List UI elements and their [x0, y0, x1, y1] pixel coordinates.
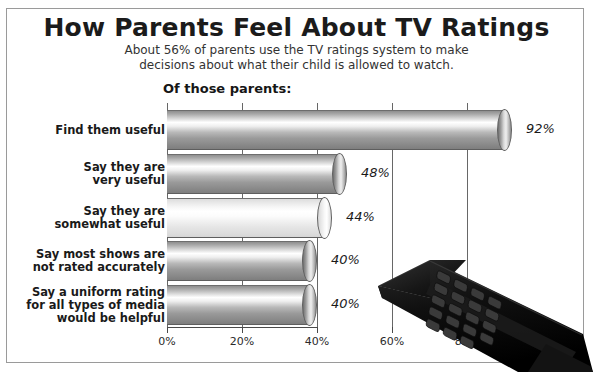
plot-area: 0%20%40%60%80%92%Find them useful48%Say …: [0, 0, 593, 372]
bar-body: [167, 241, 310, 281]
bar-value-label: 40%: [331, 296, 360, 311]
axis-tick-60: [392, 327, 393, 333]
axis-tick-label: 80%: [447, 335, 487, 348]
axis-tick-label: 40%: [297, 335, 337, 348]
category-label-line: would be helpful: [5, 312, 165, 325]
bar-value-label: 48%: [361, 165, 390, 180]
bar-2: [167, 154, 347, 194]
bar-value-label: 40%: [331, 252, 360, 267]
bar-body: [167, 285, 310, 325]
category-label-line: somewhat useful: [5, 218, 165, 231]
bar-end-cap: [332, 153, 347, 195]
category-label-5: Say a uniform ratingfor all types of med…: [5, 286, 165, 325]
bar-body: [167, 110, 505, 150]
category-label-4: Say most shows arenot rated accurately: [5, 248, 165, 274]
bar-1: [167, 110, 512, 150]
category-label-line: for all types of media: [5, 299, 165, 312]
bar-end-cap: [497, 109, 512, 151]
bar-value-label: 92%: [526, 121, 555, 136]
bar-value-label: 44%: [346, 209, 375, 224]
category-label-2: Say they arevery useful: [5, 161, 165, 187]
bar-5: [167, 285, 317, 325]
bar-body: [167, 154, 340, 194]
bar-3: [167, 198, 332, 238]
axis-tick-80: [467, 327, 468, 333]
bar-end-cap: [302, 284, 317, 326]
category-label-line: Find them useful: [5, 124, 165, 137]
axis-tick-label: 0%: [147, 335, 187, 348]
category-label-1: Find them useful: [5, 124, 165, 137]
bar-end-cap: [317, 197, 332, 239]
axis-tick-label: 20%: [222, 335, 262, 348]
category-label-line: not rated accurately: [5, 261, 165, 274]
axis-tick-label: 60%: [372, 335, 412, 348]
category-label-3: Say they aresomewhat useful: [5, 205, 165, 231]
chart-page: How Parents Feel About TV Ratings About …: [0, 0, 593, 372]
x-axis-line: [167, 327, 317, 328]
axis-tick-40: [317, 327, 318, 333]
bar-4: [167, 241, 317, 281]
category-label-line: very useful: [5, 174, 165, 187]
category-label-line: Say a uniform rating: [5, 286, 165, 299]
bar-body: [167, 198, 325, 238]
bar-end-cap: [302, 240, 317, 282]
